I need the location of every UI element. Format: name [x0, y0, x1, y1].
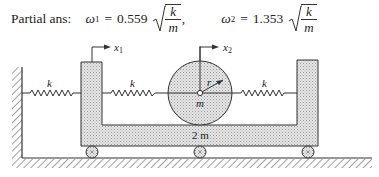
- x1-label: x1: [113, 41, 123, 55]
- left-wall: [12, 67, 22, 159]
- spring-disc-to-cart: [232, 90, 297, 96]
- mechanical-system-diagram: x1 x2 k k k r m 2 m: [0, 0, 379, 177]
- spring-label-3: k: [262, 77, 268, 89]
- spring-label-1: k: [47, 77, 53, 89]
- disc-mass-label: m: [196, 97, 204, 109]
- cart-wheels: [86, 146, 314, 158]
- ground-floor: [12, 158, 372, 168]
- x2-arrow: [200, 45, 219, 62]
- x1-arrow: [92, 45, 111, 63]
- spring-wall-to-cart: [22, 90, 81, 96]
- disc-radius-label: r: [207, 76, 212, 88]
- cart-mass-label: 2 m: [192, 129, 209, 141]
- x2-label: x2: [222, 41, 232, 55]
- spring-cart-to-disc: [102, 90, 168, 96]
- spring-label-2: k: [130, 77, 136, 89]
